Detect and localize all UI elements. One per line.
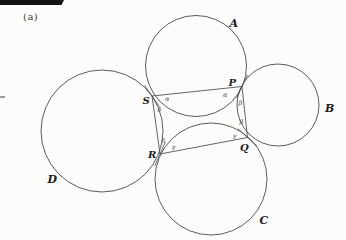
chord-PQ <box>242 87 248 138</box>
angle-label-3: β <box>239 118 244 126</box>
circle-label-D: D <box>47 173 58 186</box>
angle-label-2: β <box>238 99 243 107</box>
point-label-R: R <box>147 149 156 160</box>
chord-RS <box>152 96 160 154</box>
angle-label-1: α <box>223 91 228 99</box>
angle-label-6: δ <box>162 137 166 145</box>
circle-B <box>237 64 319 146</box>
circle-D <box>41 70 163 192</box>
geometry-figure: ABCDSPQRααββγγδδ <box>0 0 346 240</box>
point-label-Q: Q <box>240 142 249 153</box>
circle-label-B: B <box>324 102 334 115</box>
angle-label-5: γ <box>172 143 176 151</box>
circle-A <box>146 16 247 117</box>
angle-label-4: γ <box>233 132 237 140</box>
circle-label-A: A <box>229 17 239 30</box>
circle-label-C: C <box>260 214 269 227</box>
angle-label-7: δ <box>158 106 162 114</box>
point-label-S: S <box>143 95 150 106</box>
angle-label-0: α <box>165 95 170 103</box>
point-label-P: P <box>228 77 237 88</box>
